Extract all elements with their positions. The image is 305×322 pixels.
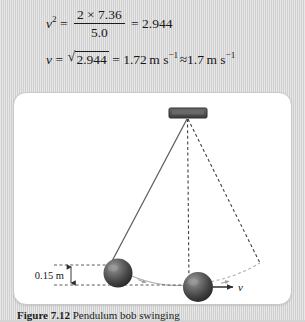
pendulum-bob-lowest-body	[183, 272, 213, 302]
equation-v-squared: v2 = 2 × 7.36 5.0 = 2.944	[46, 8, 172, 41]
equation1-equals-2: =	[131, 16, 139, 31]
figure-caption: Figure 7.12 Pendulum bob swinging	[17, 309, 292, 322]
support-block	[169, 108, 207, 118]
equation1-equals: =	[60, 16, 68, 31]
equation2-lhs-variable: v	[46, 52, 52, 67]
swing-arc-arrow-right	[221, 281, 228, 283]
equation1-denominator: 5.0	[74, 24, 125, 40]
equation-v: v = √2.944 = 1.72m s−1≈1.7m s−1	[46, 50, 235, 68]
equation2-unit-2: m s	[206, 52, 225, 67]
equation1-fraction: 2 × 7.36 5.0	[74, 7, 125, 40]
equation2-approx-sign: ≈	[180, 52, 187, 67]
support-block-highlight	[172, 111, 204, 115]
equation1-result: 2.944	[142, 16, 172, 31]
pendulum-bob-lowest-highlight	[188, 279, 199, 286]
figure-card: 0.15 m v	[13, 92, 292, 305]
pendulum-bob-raised-highlight	[108, 265, 118, 272]
figure-caption-text: Pendulum bob swinging	[70, 309, 180, 321]
height-label: 0.15 m	[35, 270, 64, 281]
equation1-numerator: 2 × 7.36	[74, 7, 125, 23]
figure-caption-label: Figure 7.12	[17, 309, 70, 321]
pendulum-bob-raised	[104, 259, 133, 288]
equation2-value-rounded: 1.7	[187, 52, 204, 67]
equation-block: v2 = 2 × 7.36 5.0 = 2.944 v = √2.944 = 1…	[0, 0, 305, 92]
equation2-equals: =	[55, 52, 63, 67]
string-raised-position	[110, 119, 187, 265]
equation1-lhs-exponent: 2	[52, 14, 57, 24]
equation2-equals-2: =	[112, 52, 120, 67]
pendulum-bob-lowest	[183, 272, 213, 302]
equation2-square-root: √2.944	[67, 51, 108, 68]
velocity-label: v	[238, 281, 243, 293]
radical-sign-icon: √	[67, 50, 75, 64]
equation2-unit: m s	[149, 52, 168, 67]
string-far-position-dashed	[188, 119, 260, 263]
string-vertical-dashed	[188, 119, 190, 284]
equation2-value: 1.72	[123, 52, 147, 67]
equation2-unit-2-exponent: −1	[226, 50, 236, 60]
equation2-unit-exponent: −1	[168, 50, 178, 60]
equation2-radicand: 2.944	[75, 51, 108, 68]
pendulum-diagram: 0.15 m v	[14, 93, 292, 305]
pendulum-bob-raised-body	[104, 259, 133, 288]
